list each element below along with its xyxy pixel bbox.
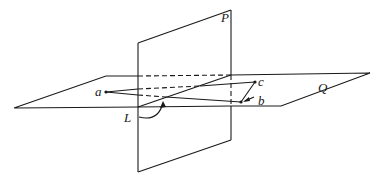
label-c: c <box>258 74 264 89</box>
label-a: a <box>95 84 102 99</box>
plane-q <box>14 73 370 108</box>
point-c <box>253 80 256 83</box>
label-q: Q <box>318 80 328 95</box>
planes-diagram: P Q L a b c <box>0 0 386 184</box>
point-b <box>239 100 242 103</box>
line-l <box>138 75 231 107</box>
label-p: P <box>220 10 229 25</box>
label-l: L <box>123 110 131 125</box>
l-rotation-arrow <box>139 101 166 118</box>
label-b: b <box>258 93 265 108</box>
b-pointer-arrow <box>243 97 254 102</box>
point-a <box>104 90 107 93</box>
